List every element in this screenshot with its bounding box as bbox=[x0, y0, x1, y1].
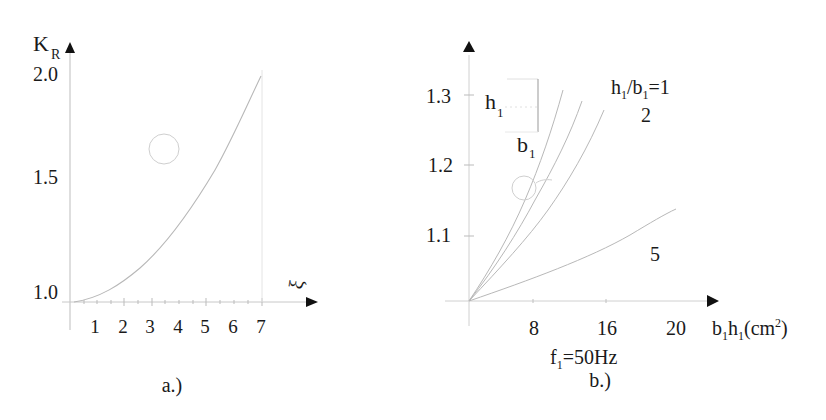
panel-b-y-tick-label: 1.2 bbox=[428, 154, 453, 176]
panel-b-curve-label-ratio-5: 5 bbox=[650, 243, 660, 265]
panel-a-x-axis-arrow-icon bbox=[306, 297, 318, 307]
panel-b: h 1 b 1 1.3 1.2 1.1 h1/b1=1 2 5 8 16 20 … bbox=[426, 41, 788, 392]
panel-b-sketch-b-sub: 1 bbox=[529, 146, 536, 161]
label-part: (cm bbox=[744, 317, 776, 340]
panel-a: K R 2.0 1.5 1.0 1 2 3 4 5 6 7 ξ a.) bbox=[33, 31, 318, 397]
panel-b-curve-ratio-5 bbox=[469, 209, 676, 301]
panel-a-circle-icon bbox=[149, 134, 179, 164]
panel-b-cross-section-sketch bbox=[505, 79, 538, 132]
panel-b-circle-leader bbox=[536, 180, 552, 183]
label-part: h bbox=[611, 76, 621, 98]
panel-b-x-tick-labels: 8 16 20 bbox=[529, 317, 686, 339]
label-part: b bbox=[712, 317, 722, 339]
panel-a-x-tick-label: 4 bbox=[173, 316, 183, 337]
panel-b-y-tick-label: 1.1 bbox=[426, 224, 451, 246]
panel-b-sketch-h-sub: 1 bbox=[497, 105, 504, 120]
panel-a-x-tick-label: 5 bbox=[200, 316, 210, 337]
label-part: /b bbox=[627, 76, 643, 98]
panel-b-sketch-b-label: b bbox=[517, 132, 528, 157]
label-part: ) bbox=[781, 317, 788, 340]
panel-b-x-label: b1h1(cm2) bbox=[712, 316, 788, 343]
panel-b-curve-label-ratio-2: 2 bbox=[641, 104, 651, 126]
panel-b-y-tick-label: 1.3 bbox=[426, 85, 451, 107]
panel-a-y-tick-label: 1.0 bbox=[33, 281, 58, 303]
panel-b-x-tick-label: 8 bbox=[529, 317, 539, 339]
panel-a-x-tick-label: 6 bbox=[228, 316, 238, 337]
label-part: h bbox=[728, 317, 738, 339]
panel-b-y-axis-arrow-icon bbox=[463, 41, 475, 52]
panel-a-y-label: K bbox=[33, 31, 49, 56]
label-part: =1 bbox=[649, 76, 670, 98]
panel-a-x-tick-labels: 1 2 3 4 5 6 7 bbox=[90, 316, 266, 337]
panel-b-x-tick-label: 16 bbox=[597, 317, 617, 339]
panel-a-x-label: ξ bbox=[284, 278, 307, 291]
panel-b-circle-icon bbox=[512, 176, 536, 200]
panel-a-y-label-sub: R bbox=[51, 47, 61, 62]
panel-b-curve-ratio-2 bbox=[469, 110, 604, 301]
panel-a-caption: a.) bbox=[162, 374, 183, 397]
panel-a-x-tick-label: 2 bbox=[118, 316, 128, 337]
panel-b-curve-label-ratio-1: h1/b1=1 bbox=[611, 76, 670, 102]
panel-a-y-tick-label: 1.5 bbox=[33, 166, 58, 188]
panel-a-y-tick-label: 2.0 bbox=[33, 63, 58, 85]
panel-b-curve-ratio-1 bbox=[469, 101, 582, 301]
panel-a-curve bbox=[74, 76, 261, 302]
panel-b-caption: b.) bbox=[589, 369, 611, 392]
panel-a-x-tick-label: 1 bbox=[90, 316, 100, 337]
panel-a-y-axis-arrow-icon bbox=[65, 42, 75, 53]
panel-b-curve-steepest bbox=[469, 90, 563, 301]
panel-b-x-tick-label: 20 bbox=[666, 317, 686, 339]
panel-b-sketch-h-label: h bbox=[485, 89, 496, 114]
figure: K R 2.0 1.5 1.0 1 2 3 4 5 6 7 ξ a.) bbox=[0, 0, 826, 420]
panel-a-x-tick-label: 3 bbox=[145, 316, 155, 337]
panel-b-x-axis-arrow-icon bbox=[707, 295, 719, 307]
label-part: =50Hz bbox=[563, 346, 618, 368]
panel-a-x-tick-label: 7 bbox=[256, 316, 266, 337]
